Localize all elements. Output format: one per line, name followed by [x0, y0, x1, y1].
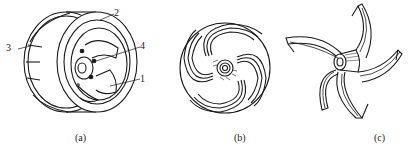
callout-1: 1 — [140, 74, 145, 84]
callout-3: 3 — [6, 43, 11, 53]
semi-open-impeller-b — [180, 23, 270, 113]
callout-2: 2 — [114, 8, 119, 18]
caption-b: (b) — [234, 133, 246, 143]
open-impeller-c — [286, 4, 402, 118]
impeller-diagram — [0, 0, 410, 149]
caption-c: (c) — [374, 133, 385, 143]
caption-a: (a) — [75, 133, 86, 143]
closed-impeller-a — [18, 12, 140, 112]
callout-4: 4 — [140, 41, 145, 51]
